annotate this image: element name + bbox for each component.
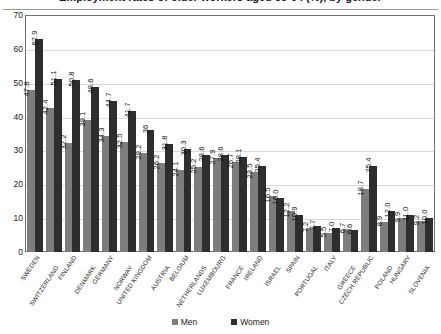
y-axis-labels: 706050403020100 xyxy=(0,15,23,252)
legend-swatch-women-icon xyxy=(231,319,237,325)
bar-women[interactable]: 36 xyxy=(147,130,155,252)
bar-women[interactable]: 51.1 xyxy=(54,79,62,252)
legend-label-men: Men xyxy=(181,317,198,327)
x-tick-cell: AUSTRIA xyxy=(156,252,175,314)
bar-value-label: 25.4 xyxy=(254,158,262,173)
bar-value-label: 18.7 xyxy=(357,180,365,195)
bar-value-label: 32.5 xyxy=(116,134,124,149)
bar-group: 26.231.8 xyxy=(156,16,175,252)
y-tick-label: 30 xyxy=(2,146,23,154)
bar-men[interactable]: 39.1 xyxy=(83,120,91,252)
bar-value-label: 7.7 xyxy=(309,220,317,231)
bar-men[interactable]: 32.5 xyxy=(120,142,128,252)
page-title: Employment rates of older workers aged 5… xyxy=(0,0,441,3)
bar-group: 24.130.3 xyxy=(174,16,193,252)
bar-value-label: 28.6 xyxy=(217,147,225,162)
bar-women[interactable]: 10.9 xyxy=(295,215,303,252)
bar-men[interactable]: 25.2 xyxy=(194,167,202,252)
bar-men[interactable]: 32.2 xyxy=(65,143,73,252)
bar-men[interactable]: 24.1 xyxy=(176,170,184,252)
bar-men[interactable]: 18.7 xyxy=(361,189,369,252)
bar-value-label: 47.8 xyxy=(23,82,31,97)
bar-group: 5.57.0 xyxy=(323,16,342,252)
bar-value-label: 51.1 xyxy=(50,71,58,86)
y-tick-label: 0 xyxy=(2,248,23,256)
bar-women[interactable]: 62.9 xyxy=(35,39,43,252)
bar-men[interactable]: 42.4 xyxy=(46,108,54,252)
bar-women[interactable]: 10.0 xyxy=(425,218,433,252)
bar-value-label: 10.0 xyxy=(421,210,429,225)
bar-value-label: 25.4 xyxy=(365,158,373,173)
chart-title-strip: Employment rates of older workers aged 5… xyxy=(0,0,441,9)
bar-women[interactable]: 48.6 xyxy=(91,87,99,252)
bar-men[interactable]: 26.2 xyxy=(157,163,165,252)
bar-women[interactable]: 25.4 xyxy=(258,166,266,252)
bar-group: 26.728.1 xyxy=(230,16,249,252)
bar-value-label: 11.0 xyxy=(402,207,410,221)
legend-item-men: Men xyxy=(172,317,198,327)
x-tick-label: SPAIN xyxy=(284,254,301,274)
x-tick-cell: SLOVENIA xyxy=(415,252,434,314)
bar-women[interactable]: 6.6 xyxy=(351,230,359,252)
bar-group: 25.228.6 xyxy=(193,16,212,252)
bars-layer: 47.862.942.451.132.250.839.148.634.344.7… xyxy=(26,16,434,252)
bar-value-label: 41.7 xyxy=(124,102,132,117)
bar-women[interactable]: 44.7 xyxy=(109,101,117,252)
bar-women[interactable]: 31.8 xyxy=(165,144,173,252)
bar-group: 9.210.0 xyxy=(415,16,434,252)
bar-group: 7.27.7 xyxy=(304,16,323,252)
x-axis-labels: SWEDENSWITZERLANDFINLANDDENMARKGERMANYNO… xyxy=(26,252,434,314)
bar-value-label: 34.3 xyxy=(98,127,106,142)
title-divider xyxy=(3,9,438,10)
bar-value-label: 39.1 xyxy=(79,111,87,126)
y-tick-label: 50 xyxy=(2,79,23,87)
y-tick-label: 20 xyxy=(2,180,23,188)
x-tick-label: ISRAEL xyxy=(263,264,282,287)
bar-value-label: 42.4 xyxy=(42,100,50,115)
bar-group: 47.862.9 xyxy=(26,16,45,252)
bar-value-label: 26.2 xyxy=(153,155,161,170)
bar-group: 27.928.6 xyxy=(211,16,230,252)
bar-value-label: 32.2 xyxy=(60,135,68,150)
bar-men[interactable]: 26.7 xyxy=(232,162,240,252)
bar-group: 32.541.7 xyxy=(119,16,138,252)
bar-value-label: 28.6 xyxy=(198,147,206,162)
bar-value-label: 62.9 xyxy=(31,31,39,46)
legend-label-women: Women xyxy=(240,317,269,327)
bar-value-label: 10.9 xyxy=(291,207,299,222)
y-tick-label: 70 xyxy=(2,11,23,19)
bar-value-label: 44.7 xyxy=(105,92,113,107)
bar-value-label: 28.1 xyxy=(235,148,243,163)
bar-men[interactable]: 8.9 xyxy=(380,222,388,252)
legend-item-women: Women xyxy=(231,317,269,327)
bar-men[interactable]: 5.5 xyxy=(324,233,332,252)
bar-men[interactable]: 34.3 xyxy=(102,136,110,252)
bar-women[interactable]: 28.6 xyxy=(202,155,210,252)
y-tick-label: 60 xyxy=(2,45,23,53)
bar-group: 12.210.9 xyxy=(286,16,305,252)
x-tick-cell: SWITZERLAND xyxy=(45,252,64,314)
bar-value-label: 16.0 xyxy=(272,189,280,204)
bar-women[interactable]: 28.6 xyxy=(221,155,229,252)
x-tick-cell: ISRAEL xyxy=(267,252,286,314)
bar-women[interactable]: 41.7 xyxy=(128,111,136,252)
bar-men[interactable]: 23.5 xyxy=(250,172,258,252)
bar-men[interactable]: 9.2 xyxy=(417,221,425,252)
bar-women[interactable]: 50.8 xyxy=(72,80,80,252)
bar-women[interactable]: 25.4 xyxy=(369,166,377,252)
x-tick-cell: FRANCE xyxy=(230,252,249,314)
bar-value-label: 50.8 xyxy=(68,72,76,87)
x-tick-cell: PORTUGAL xyxy=(304,252,323,314)
bar-value-label: 30.3 xyxy=(180,141,188,156)
bar-men[interactable]: 9.9 xyxy=(398,218,406,252)
bar-value-label: 31.8 xyxy=(161,136,169,151)
bar-group: 6.76.6 xyxy=(341,16,360,252)
bar-men[interactable]: 16.5 xyxy=(269,196,277,252)
bar-value-label: 24.1 xyxy=(172,162,180,177)
bar-men[interactable]: 27.9 xyxy=(213,158,221,252)
bar-men[interactable]: 29.2 xyxy=(139,153,147,252)
bar-men[interactable]: 47.8 xyxy=(27,90,35,252)
bar-men[interactable]: 7.2 xyxy=(306,228,314,252)
chart-legend: Men Women xyxy=(0,317,441,327)
y-tick-label: 40 xyxy=(2,113,23,121)
